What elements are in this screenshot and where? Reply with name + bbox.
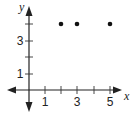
- x-axis-left-arrow-icon: [7, 87, 16, 94]
- y-axis-label: y: [18, 0, 25, 14]
- y-tick-label-3: 3: [17, 34, 24, 48]
- data-point: [59, 22, 64, 27]
- y-axis-down-arrow-icon: [26, 102, 33, 112]
- y-axis-up-arrow-icon: [26, 6, 33, 16]
- data-point: [75, 22, 80, 27]
- x-tick-label-1: 1: [42, 95, 49, 109]
- x-axis-right-arrow-icon: [113, 87, 122, 94]
- y-tick-label-1: 1: [17, 67, 24, 81]
- x-tick-label-5: 5: [107, 95, 114, 109]
- x-axis-label: x: [123, 89, 130, 103]
- coordinate-plane: 1 3 5 1 3 x y: [0, 0, 133, 125]
- data-points: [59, 22, 113, 27]
- x-tick-label-3: 3: [74, 95, 81, 109]
- data-point: [108, 22, 113, 27]
